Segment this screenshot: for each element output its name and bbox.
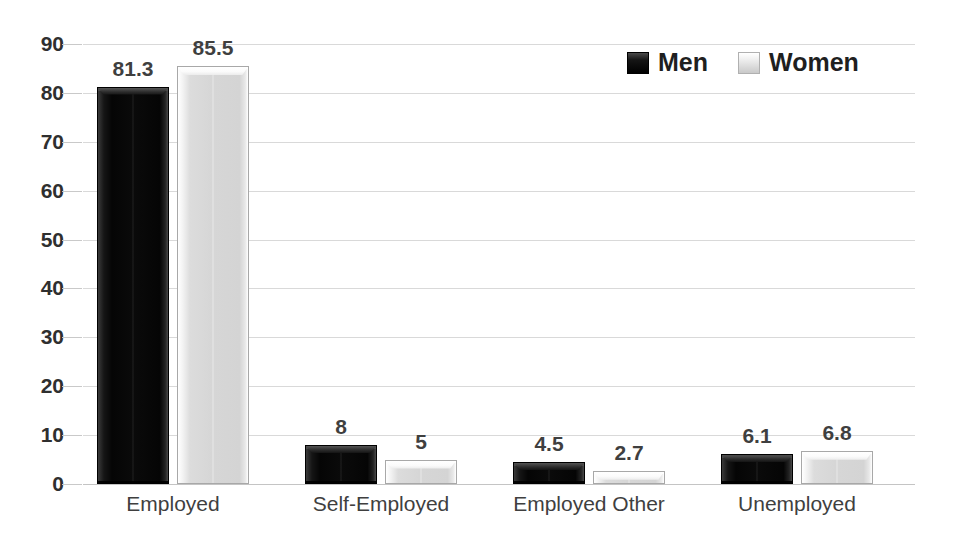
bar-group: 6.16.8 [721, 44, 873, 484]
plot-area: 81.385.5854.52.76.16.8 [83, 44, 915, 484]
bar-men-employed-other[interactable] [513, 462, 585, 484]
bar-value-label: 5 [415, 430, 427, 454]
bar-value-label: 8 [335, 415, 347, 439]
x-category-label-employed-other: Employed Other [513, 492, 665, 516]
y-tick-label: 40 [41, 276, 64, 300]
legend-label: Women [769, 48, 859, 77]
y-tick-label: 50 [41, 228, 64, 252]
y-tick-mark [62, 337, 82, 338]
legend-entry-men[interactable]: Men [627, 48, 708, 77]
gridline-0 [83, 484, 915, 485]
bar-women-employed-other[interactable] [593, 471, 665, 484]
bar-value-label: 81.3 [113, 57, 154, 81]
bar-value-label: 2.7 [614, 441, 643, 465]
y-tick-label: 80 [41, 81, 64, 105]
women-legend-swatch-icon [738, 52, 760, 74]
legend-entry-women[interactable]: Women [738, 48, 859, 77]
y-tick-label: 90 [41, 32, 64, 56]
bar-women-unemployed[interactable] [801, 451, 873, 484]
bar-value-label: 6.8 [822, 421, 851, 445]
y-tick-mark [62, 191, 82, 192]
bar-group: 85 [305, 44, 457, 484]
bar-value-label: 85.5 [193, 36, 234, 60]
y-tick-mark [62, 288, 82, 289]
bar-group: 4.52.7 [513, 44, 665, 484]
bar-value-label: 4.5 [534, 432, 563, 456]
bar-men-self-employed[interactable] [305, 445, 377, 484]
men-legend-swatch-icon [627, 52, 649, 74]
bar-women-employed[interactable] [177, 66, 249, 484]
y-tick-mark [62, 435, 82, 436]
x-category-label-unemployed: Unemployed [738, 492, 856, 516]
bar-men-employed[interactable] [97, 87, 169, 484]
y-tick-mark [62, 93, 82, 94]
x-category-label-employed: Employed [126, 492, 219, 516]
bar-men-unemployed[interactable] [721, 454, 793, 484]
legend-label: Men [658, 48, 708, 77]
y-tick-label: 20 [41, 374, 64, 398]
bar-women-self-employed[interactable] [385, 460, 457, 484]
bar-chart: 0102030405060708090 81.385.5854.52.76.16… [0, 0, 962, 553]
y-tick-label: 30 [41, 325, 64, 349]
y-tick-label: 60 [41, 179, 64, 203]
y-tick-mark [62, 240, 82, 241]
y-tick-label: 70 [41, 130, 64, 154]
chart-legend: MenWomen [627, 48, 859, 77]
x-category-label-self-employed: Self-Employed [313, 492, 450, 516]
y-tick-mark [62, 142, 82, 143]
y-tick-mark [62, 484, 82, 485]
bar-value-label: 6.1 [742, 424, 771, 448]
y-tick-label: 10 [41, 423, 64, 447]
bar-group: 81.385.5 [97, 44, 249, 484]
y-axis: 0102030405060708090 [0, 44, 74, 484]
y-tick-mark [62, 386, 82, 387]
x-axis: EmployedSelf-EmployedEmployed OtherUnemp… [83, 492, 915, 532]
y-tick-mark [62, 44, 82, 45]
